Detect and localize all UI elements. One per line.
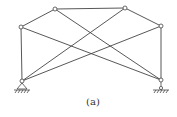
member-left-post [21,27,22,81]
figure-caption: (a) [80,96,106,107]
roller-support-icon [153,82,169,93]
joint-a [20,79,24,83]
member-left-top-chord [21,9,55,27]
member-diagonal-a-d [22,8,125,81]
truss-members [21,8,161,81]
joint-e [159,24,163,28]
member-right-top-chord [125,8,161,26]
joint-b [19,25,23,29]
pin-support-icon [14,83,30,93]
joint-f [159,78,163,82]
member-top-chord [55,8,125,9]
truss-joints [19,6,163,83]
joint-d [123,6,127,10]
member-diagonal-b-f [21,27,161,80]
joint-c [53,7,57,11]
